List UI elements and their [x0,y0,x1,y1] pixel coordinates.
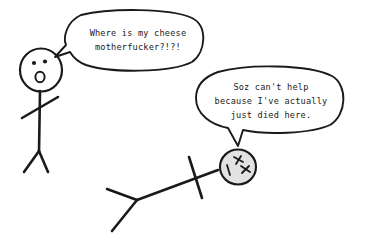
speech-bubble-dead-line-3: just died here. [231,110,312,120]
standing-figure-right-leg [39,151,48,172]
dead-figure-lower-leg [112,200,137,231]
dead-figure-head [220,150,256,185]
speech-bubble-dead-line-1: Soz can't help [233,82,308,92]
comic-illustration: Where is my cheese motherfucker?!?! Soz … [0,0,365,241]
standing-stick-figure [20,49,62,173]
standing-figure-left-leg [24,151,39,172]
speech-bubble-standing-line-2: motherfucker?!?! [95,42,181,52]
standing-figure-left-eye [32,61,36,65]
speech-bubble-dead-shape [196,66,343,146]
speech-bubble-standing-shape [55,10,203,71]
standing-figure-mouth [35,72,44,82]
dead-figure-torso [137,170,218,200]
comic-canvas: Where is my cheese motherfucker?!?! Soz … [0,0,365,241]
standing-figure-torso [39,91,40,152]
speech-bubble-standing-line-1: Where is my cheese [90,28,187,38]
standing-figure-right-eye [43,59,47,63]
speech-bubble-standing: Where is my cheese motherfucker?!?! [55,10,203,71]
dead-figure-upper-leg [107,189,137,200]
speech-bubble-dead-line-2: because I've actually [215,96,328,106]
speech-bubble-dead: Soz can't help because I've actually jus… [196,66,343,146]
dead-stick-figure [107,150,256,232]
